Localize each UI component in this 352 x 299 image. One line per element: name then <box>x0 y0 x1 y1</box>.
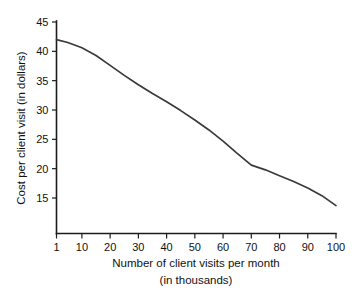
x-axis-tick-label: 90 <box>302 241 314 253</box>
x-axis-tick-label: 20 <box>104 241 116 253</box>
x-axis-tick-label: 1 <box>53 241 59 253</box>
x-axis-tick-label: 70 <box>245 241 257 253</box>
x-axis-title-line1: Number of client visits per month <box>112 257 279 269</box>
x-axis-tick-label: 10 <box>76 241 88 253</box>
chart-axes <box>57 21 337 234</box>
y-axis-tick-label: 20 <box>36 163 48 175</box>
x-axis-tick-label: 80 <box>273 241 285 253</box>
chart-line-series <box>57 40 337 206</box>
chart-series-group <box>57 40 337 206</box>
y-axis-tick-label: 40 <box>36 45 48 57</box>
x-axis-tick-label: 40 <box>160 241 172 253</box>
chart-plot-area: 15202530354045 1102030405060708090100 Nu… <box>0 0 352 299</box>
y-axis-tick-label: 30 <box>36 104 48 116</box>
y-axis-tick-label: 45 <box>36 16 48 28</box>
x-axis-tick-label: 100 <box>327 241 345 253</box>
y-axis-tick-label: 15 <box>36 192 48 204</box>
x-axis-ticks: 1102030405060708090100 <box>53 234 345 254</box>
y-axis-tick-label: 25 <box>36 133 48 145</box>
x-axis-tick-label: 50 <box>189 241 201 253</box>
x-axis-tick-label: 30 <box>132 241 144 253</box>
x-axis-tick-label: 60 <box>217 241 229 253</box>
chart-figure: 15202530354045 1102030405060708090100 Nu… <box>0 0 352 299</box>
y-axis-title: Cost per client visit (in dollars) <box>15 51 27 205</box>
y-axis-ticks: 15202530354045 <box>36 16 56 204</box>
y-axis-tick-label: 35 <box>36 75 48 87</box>
x-axis-title-line2: (in thousands) <box>160 274 233 286</box>
